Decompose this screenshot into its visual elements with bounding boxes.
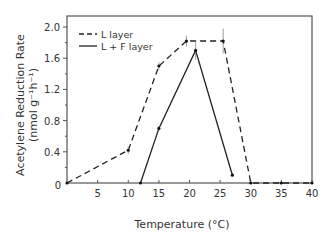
y-axis-label: Acetylene Reduction Rate (nmol g⁻¹h⁻¹) (14, 34, 40, 176)
data-point-marker (222, 39, 225, 42)
x-tick-label: 40 (306, 188, 319, 199)
data-point-marker (65, 181, 68, 184)
y-tick-label: 0 (55, 180, 61, 191)
y-tick-label: 2.0 (44, 22, 60, 33)
data-point-marker (310, 181, 313, 184)
y-tick-label: 1.6 (44, 53, 60, 64)
data-point-marker (185, 39, 188, 42)
legend: L layerL + F layer (79, 29, 153, 52)
data-point-marker (127, 149, 130, 152)
data-point-marker (231, 174, 234, 177)
x-tick-label: 35 (275, 188, 288, 199)
series-line (141, 50, 233, 183)
x-tick-label: 10 (122, 188, 135, 199)
x-tick-label: 30 (244, 188, 257, 199)
legend-label: L layer (101, 29, 133, 40)
data-point-marker (280, 181, 283, 184)
y-tick-label: 0.8 (44, 116, 60, 127)
data-point-marker (194, 49, 197, 52)
x-tick-label: 5 (94, 188, 100, 199)
y-tick-label: 0.4 (44, 147, 60, 158)
data-point-marker (157, 64, 160, 67)
x-tick-label: 25 (214, 188, 227, 199)
data-point-marker (157, 127, 160, 130)
y-axis-ticks: 00.40.81.21.62.0 (44, 22, 67, 191)
legend-label: L + F layer (101, 41, 153, 52)
data-series (65, 29, 313, 185)
y-axis-label-line2: (nmol g⁻¹h⁻¹) (27, 68, 40, 142)
y-axis-label-line1: Acetylene Reduction Rate (14, 34, 27, 176)
chart: 00.40.81.21.62.0 510152025303540 L layer… (0, 0, 331, 236)
x-axis-label: Temperature (°C) (134, 218, 230, 231)
y-tick-label: 1.2 (44, 84, 60, 95)
x-tick-label: 15 (153, 188, 166, 199)
x-tick-label: 20 (183, 188, 196, 199)
data-point-marker (139, 181, 142, 184)
data-point-marker (249, 181, 252, 184)
